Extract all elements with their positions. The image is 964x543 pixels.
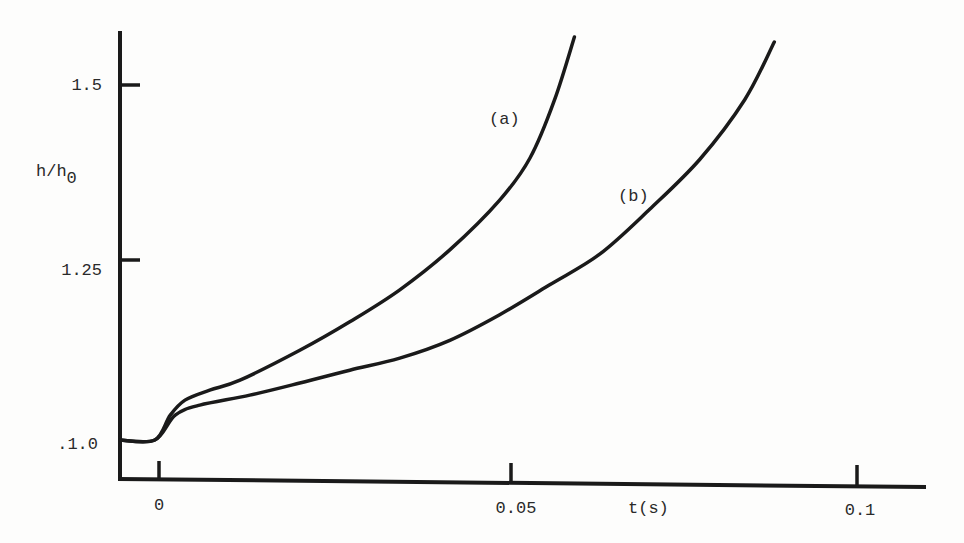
series-line-a — [120, 37, 574, 442]
y-tick-label-1.0: .1.0 — [8, 436, 98, 453]
chart-canvas — [0, 0, 964, 543]
x-axis — [118, 479, 926, 487]
series-line-b — [120, 42, 774, 442]
x-axis-label: t(s) — [628, 500, 669, 517]
y-axis-label-main: h/h — [36, 162, 67, 181]
series-layer — [120, 37, 774, 442]
y-tick-label-1.25: 1.25 — [12, 262, 102, 279]
series-label-b: (b) — [618, 188, 649, 205]
x-tick-label-0.05: 0.05 — [496, 500, 537, 517]
series-label-a: (a) — [489, 111, 520, 128]
y-axis-label: h/h0 — [36, 163, 77, 187]
x-tick-label-0: 0 — [154, 497, 164, 514]
y-tick-label-1.5: 1.5 — [12, 77, 102, 94]
y-axis-label-subscript: 0 — [67, 169, 77, 188]
x-tick-label-0.1: 0.1 — [845, 502, 876, 519]
